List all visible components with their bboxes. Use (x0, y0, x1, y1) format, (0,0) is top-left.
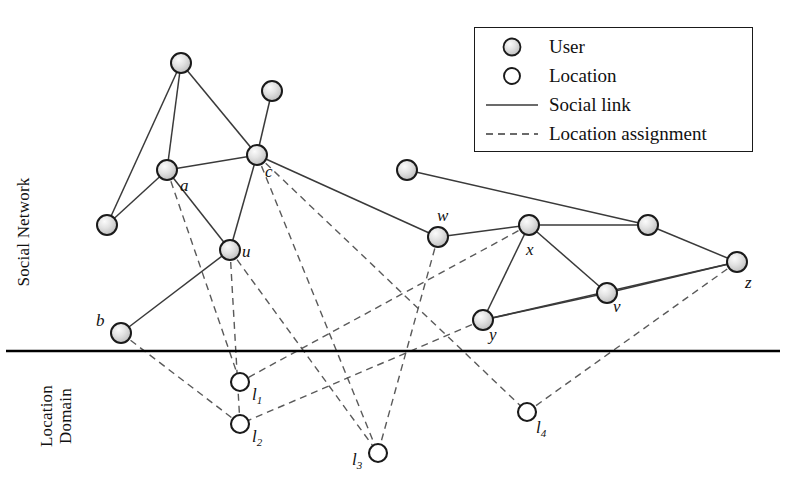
social-link (121, 250, 230, 333)
assignment-link (240, 320, 483, 424)
user-node[interactable] (519, 215, 539, 235)
assignment-link (240, 225, 529, 382)
axis-label-location-domain-line2: Domain (56, 361, 76, 471)
assignment-links-group (121, 155, 737, 453)
social-link (181, 63, 257, 155)
location-node[interactable] (518, 403, 536, 421)
user-node-icon (475, 35, 549, 59)
legend-label-user: User (549, 36, 585, 58)
user-node-label: w (437, 206, 448, 226)
location-node-label: l4 (536, 418, 546, 439)
location-node[interactable] (231, 373, 249, 391)
user-node-label: y (489, 325, 497, 345)
location-node-icon (475, 64, 549, 88)
user-node[interactable] (397, 160, 417, 180)
legend-row-location: Location (475, 61, 752, 90)
social-link (648, 225, 737, 262)
user-node[interactable] (157, 160, 177, 180)
legend-label-assignment: Location assignment (549, 123, 707, 145)
assignment-link (230, 250, 240, 424)
social-link (167, 170, 230, 250)
social-link (483, 225, 529, 320)
user-node-label: c (265, 162, 273, 182)
location-node[interactable] (231, 415, 249, 433)
legend-label-social-link: Social link (549, 94, 631, 116)
assignment-link (378, 237, 438, 453)
figure-canvas: Social Network Location Domain acubwxyvz… (0, 0, 805, 491)
user-node-label: x (526, 240, 534, 260)
user-node-label: u (242, 242, 251, 262)
axis-label-location-domain-line1: Location (37, 361, 57, 471)
social-link (529, 225, 607, 293)
assignment-link (257, 155, 527, 412)
assignment-link (527, 262, 737, 412)
solid-line-icon (475, 99, 549, 111)
location-node[interactable] (369, 444, 387, 462)
user-node-label: z (745, 273, 752, 293)
social-link (107, 170, 167, 225)
social-link (167, 155, 257, 170)
legend-row-user: User (475, 32, 752, 61)
user-node[interactable] (262, 81, 282, 101)
user-node[interactable] (220, 240, 240, 260)
user-node[interactable] (247, 145, 267, 165)
dashed-line-icon (475, 128, 549, 140)
user-node[interactable] (171, 53, 191, 73)
social-link (438, 225, 529, 237)
assignment-link (257, 155, 378, 453)
location-node-label: l2 (252, 427, 262, 448)
legend-label-location: Location (549, 65, 617, 87)
assignment-link (121, 333, 240, 424)
legend-box: User Location Social link (474, 27, 753, 152)
legend-row-social-link: Social link (475, 90, 752, 119)
location-nodes-group (231, 373, 536, 462)
user-node-label: v (613, 297, 621, 317)
user-node[interactable] (428, 227, 448, 247)
legend-row-assignment: Location assignment (475, 119, 752, 148)
user-node[interactable] (727, 252, 747, 272)
user-node-label: b (96, 311, 105, 331)
location-node-label: l1 (252, 385, 262, 406)
user-node-label: a (180, 176, 189, 196)
user-node[interactable] (97, 215, 117, 235)
user-node[interactable] (111, 323, 131, 343)
user-node[interactable] (638, 215, 658, 235)
axis-label-social-network: Social Network (14, 162, 34, 302)
social-link (230, 155, 257, 250)
location-node-label: l3 (352, 450, 362, 471)
